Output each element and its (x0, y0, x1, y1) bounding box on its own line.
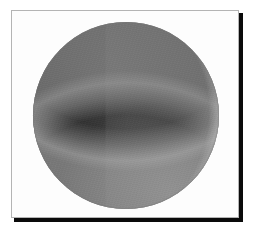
image-canvas (0, 0, 255, 237)
frame-drop-shadow-right (239, 13, 243, 222)
frame-drop-shadow-bottom (14, 218, 242, 222)
photo-frame (11, 10, 239, 218)
sphere (33, 22, 219, 209)
sphere-outline (33, 22, 219, 209)
